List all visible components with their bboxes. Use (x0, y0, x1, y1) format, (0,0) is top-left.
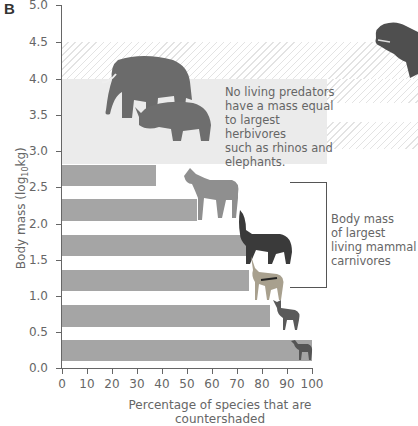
y-axis-label-end: kg) (14, 147, 28, 166)
bar-1.0-1.5 (62, 270, 249, 291)
x-tick (162, 369, 163, 374)
y-tick (56, 224, 61, 225)
y-tick (56, 42, 61, 43)
x-tick (262, 369, 263, 374)
y-tick-label: 0.5 (8, 325, 48, 339)
x-tick-label: 100 (297, 377, 327, 391)
dinosaur-icon (372, 18, 418, 80)
x-tick (212, 369, 213, 374)
y-axis-label-sub: 10 (21, 167, 30, 177)
small-deer-icon (271, 298, 301, 332)
predator-note-line: have a mass equal (225, 99, 335, 113)
carnivore-note-line: Body mass (331, 212, 418, 226)
y-tick (56, 5, 61, 6)
predator-note: No living predators have a mass equal to… (225, 85, 335, 169)
y-tick (56, 151, 61, 152)
y-axis-label-main: Body mass (log (14, 177, 28, 269)
y-tick (56, 296, 61, 297)
x-tick (237, 369, 238, 374)
x-tick (112, 369, 113, 374)
bar-0.5-1.0 (62, 305, 270, 327)
y-tick (56, 368, 61, 369)
y-tick-label: 3.5 (8, 108, 48, 122)
y-axis (61, 5, 62, 369)
carnivore-note-line: living mammal (331, 240, 418, 254)
y-tick-label: 0.0 (8, 361, 48, 375)
bar-0.0-0.5 (62, 340, 312, 361)
bar-1.5-2.0 (62, 235, 249, 256)
y-axis-label: Body mass (log10kg) (14, 128, 30, 288)
hatched-region-right-upper (327, 79, 418, 103)
carnivore-note-line: carnivores (331, 254, 418, 268)
wild-ass-icon (182, 168, 242, 224)
y-tick (56, 79, 61, 80)
predator-note-line: such as rhinos and (225, 141, 335, 155)
carnivore-note-line: of largest (331, 226, 418, 240)
x-tick (87, 369, 88, 374)
bar-2.0-2.5 (62, 199, 197, 221)
predator-note-line: elephants. (225, 155, 335, 169)
bar-2.5-3.0 (62, 165, 156, 186)
y-tick (56, 115, 61, 116)
hatched-region-right-lower (327, 122, 418, 149)
x-tick (312, 369, 313, 374)
y-tick (56, 260, 61, 261)
dik-dik-icon (290, 338, 314, 360)
y-tick-label: 4.5 (8, 35, 48, 49)
y-tick-label: 5.0 (8, 0, 48, 12)
predator-note-line: to largest herbivores (225, 113, 335, 141)
x-tick (62, 369, 63, 374)
gazelle-icon (247, 256, 287, 302)
predator-note-line: No living predators (225, 85, 335, 99)
y-tick (56, 332, 61, 333)
rhinoceros-icon (133, 97, 213, 143)
x-tick (187, 369, 188, 374)
y-tick-label: 1.0 (8, 289, 48, 303)
y-tick-label: 4.0 (8, 72, 48, 86)
x-tick (287, 369, 288, 374)
carnivore-note: Body mass of largest living mammal carni… (331, 212, 418, 268)
x-axis-label: Percentage of species that are countersh… (100, 398, 340, 426)
x-tick (137, 369, 138, 374)
y-tick (56, 187, 61, 188)
